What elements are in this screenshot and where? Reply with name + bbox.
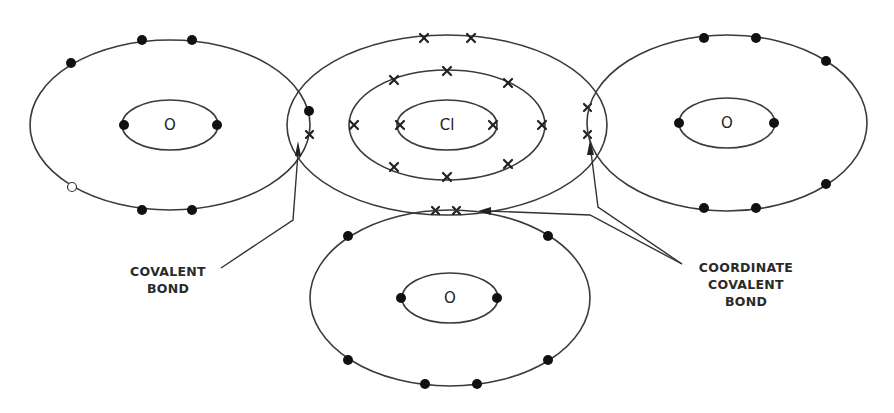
svg-text:COVALENT: COVALENT	[708, 277, 784, 292]
svg-text:COORDINATE: COORDINATE	[699, 260, 793, 275]
electron-dot-icon	[769, 118, 779, 128]
atom-symbol: O	[721, 114, 733, 132]
atom-chlorine: Cl	[287, 34, 607, 215]
coordinate-bond-leader-bottom	[478, 207, 682, 264]
atom-symbol: Cl	[440, 116, 455, 134]
atom-oxygen-bottom: O	[310, 210, 590, 389]
svg-text:COVALENT: COVALENT	[130, 264, 206, 279]
electron-dot-icon	[751, 33, 761, 43]
atom-symbol: O	[444, 289, 456, 307]
atom-symbol: O	[164, 116, 176, 134]
electron-dot-icon	[187, 35, 197, 45]
electron-hollow-icon	[68, 183, 77, 192]
electron-dot-icon	[821, 56, 831, 66]
electron-dot-icon	[821, 179, 831, 189]
electron-dot-icon	[543, 231, 553, 241]
electron-dot-icon	[137, 35, 147, 45]
electron-dot-icon	[343, 231, 353, 241]
electron-dot-icon	[137, 205, 147, 215]
electron-cross-icon	[489, 121, 497, 129]
electron-dot-icon	[674, 118, 684, 128]
covalent-bond-leader	[221, 141, 301, 268]
covalent-bond-label: COVALENT BOND	[130, 264, 206, 296]
electron-dot-icon	[699, 33, 709, 43]
electron-dot-icon	[472, 379, 482, 389]
electron-dot-icon	[187, 205, 197, 215]
coordinate-covalent-bond-label: COORDINATE COVALENT BOND	[699, 260, 793, 309]
electron-dot-icon	[699, 203, 709, 213]
electron-cross-icon	[504, 160, 512, 168]
electron-dot-icon	[751, 203, 761, 213]
electron-cross-icon	[350, 121, 358, 129]
electron-dot-icon	[212, 120, 222, 130]
chlorate-electron-diagram: O Cl	[0, 0, 894, 413]
electron-dot-icon	[420, 379, 430, 389]
electron-dot-icon	[492, 293, 502, 303]
electron-dot-icon	[119, 120, 129, 130]
electron-dot-icon	[543, 355, 553, 365]
atom-oxygen-right: O	[587, 33, 867, 213]
svg-text:BOND: BOND	[147, 281, 189, 296]
electron-dot-icon	[343, 355, 353, 365]
electron-cross-icon	[390, 163, 398, 171]
electron-cross-icon	[443, 67, 451, 75]
svg-text:BOND: BOND	[725, 294, 767, 309]
arrow-icon	[295, 141, 301, 156]
electron-cross-icon	[467, 34, 475, 42]
atom-oxygen-left: O	[30, 35, 314, 215]
electron-dot-icon	[396, 293, 406, 303]
shared-electron-dot-icon	[304, 106, 314, 116]
electron-dot-icon	[66, 58, 76, 68]
